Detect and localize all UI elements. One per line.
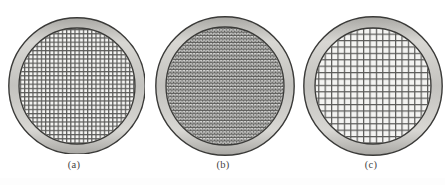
figure-container: (a) (b) (c) <box>0 0 445 185</box>
mesh-disc-a <box>3 8 145 154</box>
mesh-disc-a-graphic <box>3 8 145 154</box>
mesh-disc-c <box>299 8 443 156</box>
mesh-disc-b-graphic <box>151 8 295 156</box>
panel-a-caption: (a) <box>0 158 148 171</box>
mesh-disc-c-graphic <box>299 8 443 156</box>
panel-b-caption: (b) <box>149 158 297 171</box>
panel-c: (c) <box>297 0 445 185</box>
mesh-disc-b <box>151 8 295 156</box>
panel-a: (a) <box>0 0 148 185</box>
panel-c-caption: (c) <box>297 158 445 171</box>
panel-b: (b) <box>149 0 297 185</box>
